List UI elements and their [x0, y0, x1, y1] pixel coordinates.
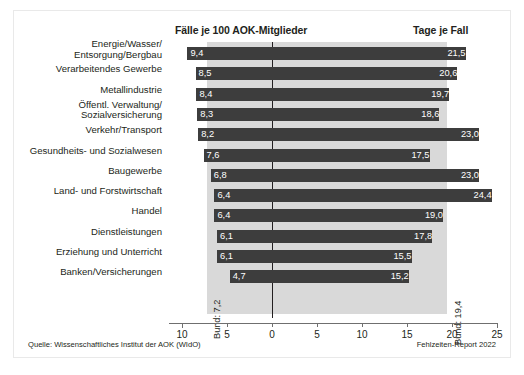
bar-value-tage: 23,0 [272, 128, 482, 141]
axis-tick-label: 10 [347, 329, 377, 340]
axis-tick-label: 10 [167, 329, 197, 340]
bar-value-tage: 20,6 [272, 67, 460, 80]
category-label: Handel [12, 206, 162, 217]
category-label: Gesundheits- und Sozialwesen [12, 146, 162, 157]
chart-figure: Fälle je 100 AOK-Mitglieder Tage je Fall… [13, 10, 511, 358]
bar-value-faelle: 8,2 [198, 128, 214, 141]
bar-value-tage: 21,5 [272, 47, 469, 60]
bar-row: Energie/Wasser/ Entsorgung/Bergbau9,421,… [14, 44, 511, 64]
bar-row: Gesundheits- und Sozialwesen7,617,5 [14, 146, 511, 166]
category-label: Metallindustrie [12, 85, 162, 96]
bar-value-tage: 18,6 [272, 108, 442, 121]
axis-tick [497, 323, 498, 328]
category-label: Land- und Forstwirtschaft [12, 186, 162, 197]
bar-value-tage: 17,5 [272, 149, 433, 162]
bar-row: Erziehung und Unterricht6,115,5 [14, 247, 511, 267]
bar-value-tage: 24,4 [272, 189, 495, 202]
category-label: Dienstleistungen [12, 227, 162, 238]
bar-value-faelle: 7,6 [204, 149, 220, 162]
bar-value-tage: 23,0 [272, 169, 482, 182]
category-label: Öffentl. Verwaltung/ Sozialversicherung [12, 100, 162, 121]
axis-tick [272, 323, 273, 327]
axis-tick [407, 323, 408, 327]
axis-tick [227, 323, 228, 327]
header-right-label: Tage je Fall [413, 24, 468, 36]
bar-value-tage: 15,5 [272, 250, 415, 263]
axis-tick [317, 323, 318, 327]
axis-tick [452, 323, 453, 327]
axis-tick-label: 5 [302, 329, 332, 340]
axis-tick [182, 323, 183, 328]
category-label: Banken/Versicherungen [12, 267, 162, 278]
bar-row: Verkehr/Transport8,223,0 [14, 125, 511, 145]
bar-row: Öffentl. Verwaltung/ Sozialversicherung8… [14, 105, 511, 125]
bar-value-faelle: 6,8 [211, 169, 227, 182]
header-left-label: Fälle je 100 AOK-Mitglieder [175, 24, 307, 36]
bar-value-faelle: 9,4 [187, 47, 203, 60]
bar-value-faelle: 4,7 [230, 270, 246, 283]
bar-value-tage: 15,2 [272, 270, 412, 283]
x-axis-line [169, 323, 498, 324]
bar-value-faelle: 6,4 [214, 189, 230, 202]
bar-value-faelle: 8,5 [196, 67, 212, 80]
category-label: Verkehr/Transport [12, 125, 162, 136]
category-label: Baugewerbe [12, 166, 162, 177]
axis-tick-label: 15 [392, 329, 422, 340]
bar-value-faelle: 6,4 [214, 209, 230, 222]
bar-row: Banken/Versicherungen4,715,2 [14, 267, 511, 287]
axis-tick-label: 25 [482, 329, 512, 340]
bar-value-faelle: 8,4 [196, 88, 212, 101]
category-label: Erziehung und Unterricht [12, 247, 162, 258]
axis-tick-label: 5 [212, 329, 242, 340]
bar-value-tage: 19,7 [272, 88, 452, 101]
bar-value-tage: 19,0 [272, 209, 446, 222]
bar-value-tage: 17,8 [272, 230, 435, 243]
report-note: Fehlzeiten-Report 2022 [417, 340, 496, 349]
axis-tick [362, 323, 363, 327]
axis-tick-label: 20 [437, 329, 467, 340]
bar-value-faelle: 6,1 [217, 230, 233, 243]
category-label: Energie/Wasser/ Entsorgung/Bergbau [12, 39, 162, 60]
source-note: Quelle: Wissenschaftliches Institut der … [28, 340, 201, 349]
bar-row: Verarbeitendes Gewerbe8,520,6 [14, 64, 511, 84]
plot-area: Energie/Wasser/ Entsorgung/Bergbau9,421,… [14, 42, 511, 324]
bar-value-faelle: 8,3 [197, 108, 213, 121]
bar-row: Handel6,419,0 [14, 206, 511, 226]
category-label: Verarbeitendes Gewerbe [12, 64, 162, 75]
bar-row: Dienstleistungen6,117,8 [14, 227, 511, 247]
bar-row: Land- und Forstwirtschaft6,424,4 [14, 186, 511, 206]
axis-tick-label: 0 [257, 329, 287, 340]
bar-row: Baugewerbe6,823,0 [14, 166, 511, 186]
bar-value-faelle: 6,1 [217, 250, 233, 263]
